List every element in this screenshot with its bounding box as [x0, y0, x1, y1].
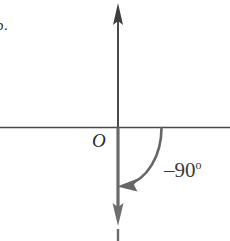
- item-label: b.: [0, 18, 8, 33]
- rotation-arc-path: [126, 128, 162, 186]
- diagram-canvas: [0, 0, 230, 241]
- angle-value: –90: [164, 158, 196, 182]
- origin-label: O: [92, 131, 106, 150]
- angle-measure-label: –90o: [164, 160, 202, 181]
- rotation-arc-arrowhead-icon: [117, 179, 138, 192]
- angle-diagram-figure: b. O –90o: [0, 0, 230, 241]
- degree-symbol: o: [196, 158, 202, 172]
